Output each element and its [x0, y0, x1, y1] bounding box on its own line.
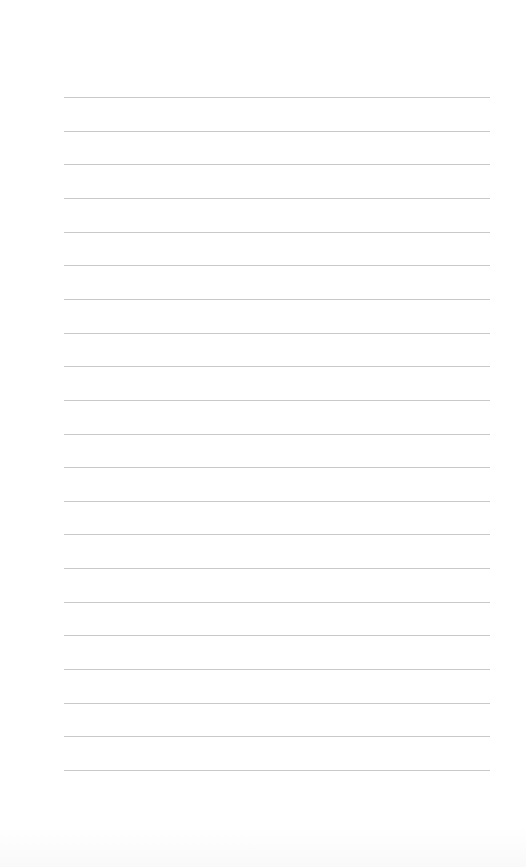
ruled-line [64, 534, 490, 535]
ruled-line [64, 635, 490, 636]
ruled-line [64, 265, 490, 266]
ruled-line [64, 736, 490, 737]
ruled-line [64, 467, 490, 468]
lined-paper-page [0, 0, 526, 867]
ruled-line [64, 434, 490, 435]
ruled-line [64, 669, 490, 670]
ruled-line [64, 770, 490, 771]
ruled-line [64, 333, 490, 334]
ruled-line [64, 299, 490, 300]
ruled-line [64, 568, 490, 569]
ruled-line [64, 97, 490, 98]
ruled-line [64, 602, 490, 603]
ruled-line [64, 400, 490, 401]
ruled-line [64, 703, 490, 704]
ruled-line [64, 131, 490, 132]
page-bottom-shading [0, 826, 526, 867]
ruled-line [64, 164, 490, 165]
ruled-line [64, 232, 490, 233]
ruled-line [64, 501, 490, 502]
ruled-line [64, 198, 490, 199]
ruled-line [64, 366, 490, 367]
